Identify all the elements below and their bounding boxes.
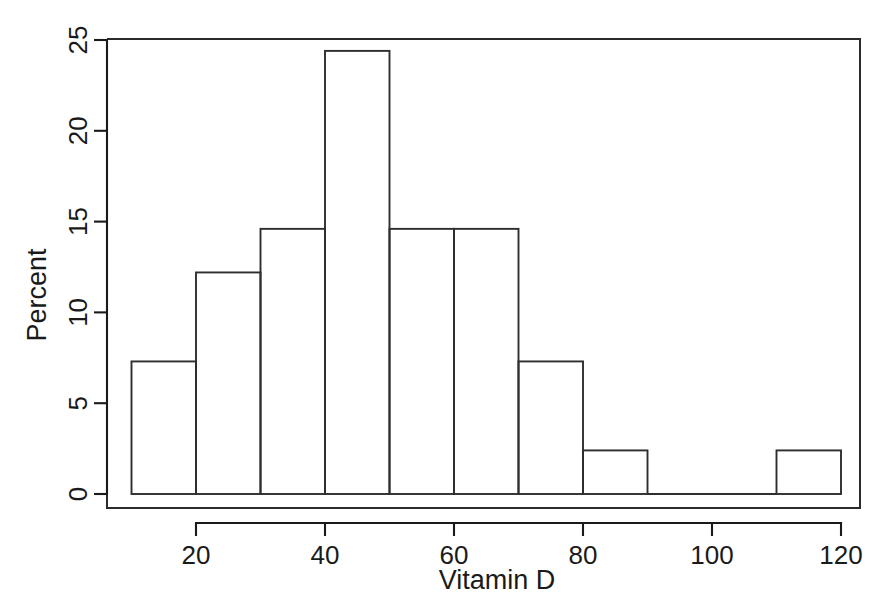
plot-frame: [107, 39, 860, 508]
x-axis-tick-label: 80: [569, 540, 598, 570]
y-axis-tick-label: 0: [63, 487, 93, 501]
histogram-bar: [454, 229, 519, 494]
y-axis-tick-label: 5: [63, 396, 93, 410]
x-axis-title: Vitamin D: [439, 565, 556, 595]
x-axis-tick-label: 100: [690, 540, 733, 570]
x-axis-tick-label: 40: [311, 540, 340, 570]
y-axis-title: Percent: [22, 248, 52, 342]
y-axis-tick-label: 10: [63, 298, 93, 327]
histogram-bars: [132, 51, 842, 494]
histogram-bar: [196, 272, 261, 494]
histogram-bar: [390, 229, 455, 494]
plot-canvas: 0510152025 20406080100120 Vitamin D Perc…: [0, 0, 895, 616]
y-axis-tick-label: 15: [63, 207, 93, 236]
histogram-figure: 0510152025 20406080100120 Vitamin D Perc…: [0, 0, 895, 616]
y-axis-tick-label: 25: [63, 26, 93, 55]
histogram-bar: [583, 450, 648, 494]
x-axis: 20406080100120: [182, 523, 863, 570]
histogram-bar: [777, 450, 842, 494]
histogram-bar: [519, 361, 584, 494]
x-axis-tick-label: 120: [819, 540, 862, 570]
x-axis-tick-label: 20: [182, 540, 211, 570]
histogram-bar: [132, 361, 197, 494]
histogram-bar: [325, 51, 390, 494]
y-axis: 0510152025: [63, 26, 107, 502]
histogram-bar: [261, 229, 326, 494]
y-axis-tick-label: 20: [63, 116, 93, 145]
